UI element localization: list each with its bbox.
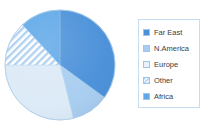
- legend-label-far-east: Far East: [154, 28, 182, 37]
- legend-item-far-east[interactable]: Far East: [143, 24, 196, 40]
- legend-swatch-other: [143, 77, 150, 84]
- legend-label-africa: Africa: [154, 92, 173, 101]
- legend-item-other[interactable]: Other: [143, 72, 196, 88]
- legend-item-africa[interactable]: Africa: [143, 88, 196, 104]
- legend-swatch-far-east: [143, 29, 150, 36]
- legend-label-other: Other: [154, 76, 173, 85]
- hatch-pattern-icon: [144, 78, 149, 83]
- pie-chart-figure: Far East N.America Europe Other Africa: [0, 0, 204, 127]
- legend-label-n-america: N.America: [154, 44, 189, 53]
- legend-swatch-africa: [143, 93, 150, 100]
- legend-label-europe: Europe: [154, 60, 178, 69]
- legend-swatch-n-america: [143, 45, 150, 52]
- legend-item-europe[interactable]: Europe: [143, 56, 196, 72]
- legend-item-n-america[interactable]: N.America: [143, 40, 196, 56]
- pie-chart-plot-area: [0, 0, 130, 127]
- pie-chart-svg: [0, 0, 130, 127]
- pie-gloss-overlay: [5, 10, 115, 120]
- chart-legend: Far East N.America Europe Other Africa: [138, 19, 200, 108]
- legend-swatch-europe: [143, 61, 150, 68]
